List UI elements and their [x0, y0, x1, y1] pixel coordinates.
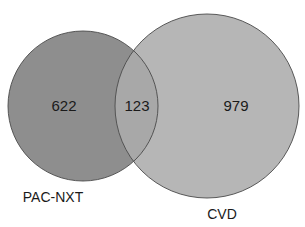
cvd-label: CVD — [207, 206, 237, 222]
venn-diagram: 622 123 979 PAC-NXT CVD — [0, 0, 305, 227]
intersection-count: 123 — [124, 97, 149, 114]
pac-nxt-label: PAC-NXT — [23, 189, 84, 205]
cvd-only-count: 979 — [223, 97, 248, 114]
pac-nxt-only-count: 622 — [51, 97, 76, 114]
